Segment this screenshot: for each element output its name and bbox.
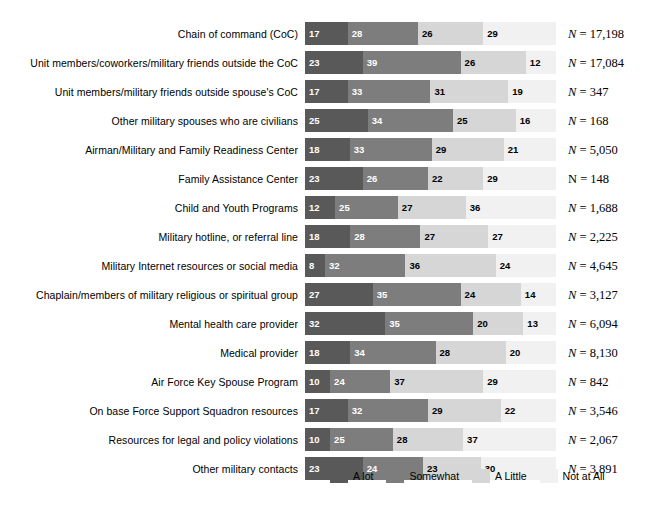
legend-item[interactable]: Somewhat [386,469,459,483]
bar-segment: 33 [348,80,431,103]
segment-value: 29 [432,406,443,416]
category-label: Air Force Key Spouse Program [0,376,305,388]
bar-segment: 17 [305,80,348,103]
category-label: Family Assistance Center [0,173,305,185]
bar-segment: 29 [483,370,556,393]
sample-size-label: N = 8,130 [556,346,618,360]
legend-label: A lot [353,470,373,482]
bar-segment: 25 [305,109,368,132]
bar-segment: 26 [461,51,526,74]
bar-segment: 37 [390,370,483,393]
bar-segment: 23 [305,167,363,190]
segment-value: 12 [530,58,541,68]
segment-value: 37 [394,377,405,387]
segment-value: 35 [389,319,400,329]
sample-size-label: N = 3,546 [556,404,618,418]
segment-value: 27 [492,232,503,242]
legend-label: A Little [495,470,527,482]
segment-value: 24 [465,290,476,300]
bar-segment: 39 [363,51,461,74]
segment-value: 32 [329,261,340,271]
bar-segment: 17 [305,399,348,422]
bar-segment: 24 [330,370,390,393]
category-label: Mental health care provider [0,318,305,330]
bar-segment: 36 [466,196,556,219]
bar-segment: 35 [373,283,461,306]
stacked-bar: 10243729 [305,370,556,393]
chart-row: Unit members/coworkers/military friends … [0,51,653,74]
segment-value: 32 [352,406,363,416]
bar-segment: 26 [418,22,483,45]
stacked-bar: 8323624 [305,254,556,277]
stacked-bar: 12252736 [305,196,556,219]
bar-segment: 16 [516,109,556,132]
legend-item[interactable]: A Little [472,469,527,483]
legend-swatch [472,469,490,483]
segment-value: 33 [352,87,363,97]
segment-value: 20 [477,319,488,329]
bar-segment: 13 [523,312,556,335]
segment-value: 24 [334,377,345,387]
bar-segment: 29 [428,399,501,422]
segment-value: 14 [525,290,536,300]
category-label: Unit members/coworkers/military friends … [0,57,305,69]
bar-segment: 25 [330,428,393,451]
sample-size-label: N = 5,050 [556,143,618,157]
segment-value: 25 [339,203,350,213]
sample-size-label: N = 2,225 [556,230,618,244]
stacked-bar: 18342820 [305,341,556,364]
segment-value: 28 [397,435,408,445]
category-label: Other military spouses who are civilians [0,115,305,127]
chart-rows: Chain of command (CoC)17282629N = 17,198… [0,22,653,486]
legend-swatch [386,469,404,483]
sample-size-label: N = 6,094 [556,317,618,331]
bar-segment: 27 [398,196,466,219]
legend-item[interactable]: A lot [330,469,373,483]
bar-segment: 24 [461,283,521,306]
bar-segment: 18 [305,225,350,248]
legend-swatch [540,469,558,483]
legend-swatch [330,469,348,483]
chart-row: Mental health care provider32352013N = 6… [0,312,653,335]
segment-value: 28 [352,29,363,39]
stacked-bar: 17282629 [305,22,556,45]
segment-value: 22 [505,406,516,416]
stacked-bar: 32352013 [305,312,556,335]
bar-segment: 29 [432,138,504,161]
stacked-bar-chart: Chain of command (CoC)17282629N = 17,198… [0,0,653,522]
category-label: Other military contacts [0,463,305,475]
bar-segment: 12 [526,51,556,74]
segment-value: 29 [487,174,498,184]
legend-item[interactable]: Not at All [540,469,605,483]
chart-row: Air Force Key Spouse Program10243729N = … [0,370,653,393]
category-label: Airman/Military and Family Readiness Cen… [0,144,305,156]
segment-value: 12 [309,203,320,213]
chart-row: On base Force Support Squadron resources… [0,399,653,422]
bar-segment: 19 [508,80,556,103]
segment-value: 26 [422,29,433,39]
bar-segment: 21 [504,138,556,161]
segment-value: 10 [309,435,320,445]
sample-size-label: N = 842 [556,375,608,389]
bar-segment: 34 [368,109,453,132]
bar-segment: 28 [393,428,463,451]
category-label: Unit members/military friends outside sp… [0,86,305,98]
sample-size-label: N = 148 [556,172,609,186]
segment-value: 13 [527,319,538,329]
segment-value: 17 [309,406,320,416]
bar-segment: 37 [463,428,556,451]
stacked-bar: 27352414 [305,283,556,306]
bar-segment: 14 [521,283,556,306]
chart-row: Medical provider18342820N = 8,130 [0,341,653,364]
sample-size-label: N = 3,127 [556,288,618,302]
segment-value: 18 [309,145,320,155]
sample-size-label: N = 347 [556,85,608,99]
bar-segment: 18 [305,341,350,364]
bar-segment: 33 [350,138,432,161]
chart-row: Child and Youth Programs12252736N = 1,68… [0,196,653,219]
bar-segment: 35 [385,312,473,335]
bar-segment: 22 [501,399,556,422]
segment-value: 32 [309,319,320,329]
stacked-bar: 23262229 [305,167,556,190]
stacked-bar: 17322922 [305,399,556,422]
